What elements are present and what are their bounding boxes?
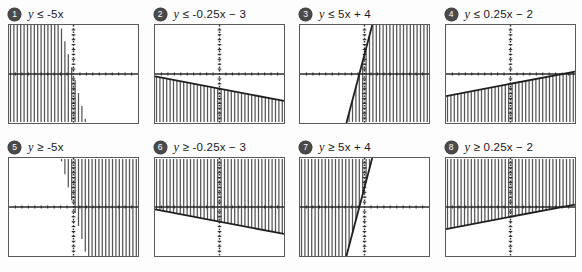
- graph-panel-4[interactable]: [445, 24, 576, 124]
- inequality-text-7: ≥ 5x + 4: [325, 141, 371, 153]
- graph-panel-1[interactable]: [8, 24, 139, 124]
- inequality-text-2: ≤ -0.25x − 3: [179, 8, 246, 20]
- inequality-label-3: y ≤ 5x + 4: [319, 7, 371, 22]
- badge-number-1: 1: [8, 8, 21, 21]
- graph-header-2: 2 y ≤ -0.25x − 3: [154, 4, 286, 24]
- graph-panel-3[interactable]: [299, 24, 430, 124]
- badge-number-8: 8: [445, 141, 458, 154]
- graph-cell-5: 5 y ≥ -5x: [0, 133, 146, 272]
- graph-panel-2[interactable]: [154, 24, 285, 124]
- graph-header-4: 4 y ≤ 0.25x − 2: [445, 4, 577, 24]
- graph-header-6: 6 y ≥ -0.25x − 3: [154, 137, 286, 157]
- badge-number-7: 7: [299, 141, 312, 154]
- inequality-label-1: y ≤ -5x: [28, 7, 64, 22]
- graph-header-7: 7 y ≥ 5x + 4: [299, 137, 431, 157]
- graph-panel-5[interactable]: [8, 157, 139, 257]
- graph-row-top: 1 y ≤ -5x 2 y ≤ -0.25x − 3 3 y ≤ 5x + 4 …: [0, 0, 582, 133]
- graph-panel-8[interactable]: [445, 157, 576, 257]
- inequality-label-2: y ≤ -0.25x − 3: [174, 7, 247, 22]
- inequality-label-7: y ≥ 5x + 4: [319, 140, 371, 155]
- graph-cell-7: 7 y ≥ 5x + 4: [291, 133, 437, 272]
- badge-number-6: 6: [154, 141, 167, 154]
- graph-cell-4: 4 y ≤ 0.25x − 2: [437, 0, 582, 133]
- graph-header-1: 1 y ≤ -5x: [8, 4, 140, 24]
- badge-number-4: 4: [445, 8, 458, 21]
- graph-panel-6[interactable]: [154, 157, 285, 257]
- inequality-text-8: ≥ 0.25x − 2: [470, 141, 533, 153]
- worksheet: 1 y ≤ -5x 2 y ≤ -0.25x − 3 3 y ≤ 5x + 4 …: [0, 0, 582, 272]
- graph-panel-7[interactable]: [299, 157, 430, 257]
- graph-cell-3: 3 y ≤ 5x + 4: [291, 0, 437, 133]
- badge-number-5: 5: [8, 141, 21, 154]
- inequality-label-8: y ≥ 0.25x − 2: [465, 140, 534, 155]
- graph-cell-1: 1 y ≤ -5x: [0, 0, 146, 133]
- inequality-label-4: y ≤ 0.25x − 2: [465, 7, 534, 22]
- graph-cell-2: 2 y ≤ -0.25x − 3: [146, 0, 292, 133]
- inequality-label-6: y ≥ -0.25x − 3: [174, 140, 247, 155]
- inequality-text-4: ≤ 0.25x − 2: [470, 8, 533, 20]
- inequality-text-5: ≥ -5x: [34, 141, 64, 153]
- graph-cell-6: 6 y ≥ -0.25x − 3: [146, 133, 292, 272]
- graph-row-bottom: 5 y ≥ -5x 6 y ≥ -0.25x − 3 7 y ≥ 5x + 4 …: [0, 133, 582, 272]
- graph-cell-8: 8 y ≥ 0.25x − 2: [437, 133, 582, 272]
- graph-header-3: 3 y ≤ 5x + 4: [299, 4, 431, 24]
- graph-header-5: 5 y ≥ -5x: [8, 137, 140, 157]
- inequality-text-1: ≤ -5x: [34, 8, 64, 20]
- inequality-label-5: y ≥ -5x: [28, 140, 64, 155]
- inequality-text-6: ≥ -0.25x − 3: [179, 141, 246, 153]
- graph-header-8: 8 y ≥ 0.25x − 2: [445, 137, 577, 157]
- badge-number-2: 2: [154, 8, 167, 21]
- badge-number-3: 3: [299, 8, 312, 21]
- inequality-text-3: ≤ 5x + 4: [325, 8, 371, 20]
